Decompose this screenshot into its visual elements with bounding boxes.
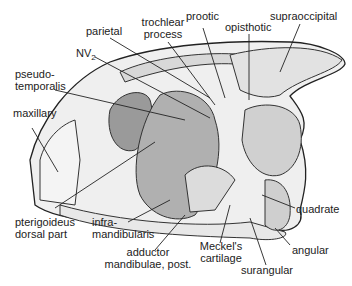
label-pterigoideus: pterigoideus dorsal part: [15, 216, 75, 240]
label-trochlear-process: trochlear process: [132, 16, 194, 40]
label-maxillary: maxillary: [13, 107, 56, 119]
label-angular: angular: [292, 244, 329, 256]
label-surangular: surangular: [241, 264, 293, 276]
label-inframandibularis: infra- mandibularis: [92, 216, 154, 240]
label-meckels-cartilage: Meckel's cartilage: [194, 240, 248, 264]
label-opisthotic: opisthotic: [225, 21, 271, 33]
label-adductor-mandibulae: adductor mandibulae, post.: [96, 246, 200, 270]
label-prootic: prootic: [186, 10, 219, 22]
label-supraoccipital: supraoccipital: [270, 10, 337, 22]
label-parietal: parietal: [86, 25, 122, 37]
label-quadrate: quadrate: [296, 203, 339, 215]
label-pseudotemporalis: pseudo- temporalis: [15, 68, 66, 92]
label-nv2: NV2: [76, 47, 96, 64]
